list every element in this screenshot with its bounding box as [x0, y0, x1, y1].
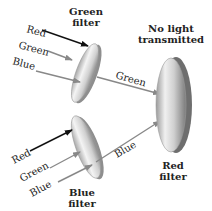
no-light-label-line1: No light: [148, 23, 194, 34]
green-filter-input-red: Red: [25, 23, 48, 39]
blue-filter-input-blue: Blue: [28, 178, 53, 199]
green-ray-arrow-top: [48, 51, 72, 60]
blue-filter-label-line1: Blue: [69, 187, 95, 198]
blue-output-label: Blue: [113, 139, 138, 160]
no-light-label-line2: transmitted: [138, 34, 204, 45]
red-ray-arrow-top: [42, 30, 88, 46]
blue-filter-input-red: Red: [10, 146, 33, 165]
green-filter-input-green: Green: [17, 39, 50, 58]
green-filter-label-line2: filter: [72, 17, 100, 28]
red-filter: [156, 57, 192, 153]
green-filter: [66, 41, 107, 106]
green-filter-label-line1: Green: [69, 6, 104, 17]
blue-ray-arrow-top: [36, 71, 80, 82]
blue-filter: [65, 113, 109, 183]
color-filter-diagram: Green filter Red Green Blue Green Red Gr…: [0, 0, 212, 211]
red-filter-label-line1: Red: [162, 160, 184, 171]
blue-filter-label-line2: filter: [68, 198, 96, 209]
blue-ray-arrow-bottom: [58, 165, 92, 182]
green-ray-arrow-bottom: [50, 152, 80, 168]
green-filter-input-blue: Blue: [11, 55, 36, 72]
red-filter-label-line2: filter: [159, 171, 187, 182]
red-ray-arrow-bottom: [30, 130, 72, 151]
